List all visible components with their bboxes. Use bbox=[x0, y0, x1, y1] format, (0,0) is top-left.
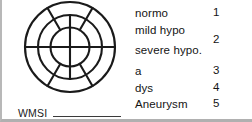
legend-score-5: 5 bbox=[135, 95, 252, 111]
wmsi-label: WMSI bbox=[18, 107, 47, 119]
spoke-120 bbox=[48, 8, 61, 30]
bullseye-panel: WMSI bbox=[2, 0, 128, 122]
legend-score-4: 4 bbox=[135, 79, 252, 95]
spoke-240 bbox=[48, 64, 61, 86]
spoke-60 bbox=[80, 8, 93, 30]
panel-frame: WMSI normo 1 mild hypo 2 severe hypo. a … bbox=[0, 0, 252, 122]
legend-score-3: 3 bbox=[135, 62, 252, 78]
wmsi-field-row: WMSI bbox=[18, 99, 128, 119]
legend-label: severe hypo. bbox=[135, 43, 202, 57]
bullseye-diagram[interactable] bbox=[20, 0, 120, 97]
bullseye-svg bbox=[20, 0, 120, 97]
legend-item-severe-hypo: severe hypo. bbox=[135, 41, 252, 58]
legend-score-1: 1 bbox=[135, 4, 252, 20]
wmsi-value-blank[interactable] bbox=[53, 116, 121, 117]
score-legend: normo 1 mild hypo 2 severe hypo. a 3 dys… bbox=[135, 0, 252, 122]
spoke-300 bbox=[80, 64, 93, 86]
